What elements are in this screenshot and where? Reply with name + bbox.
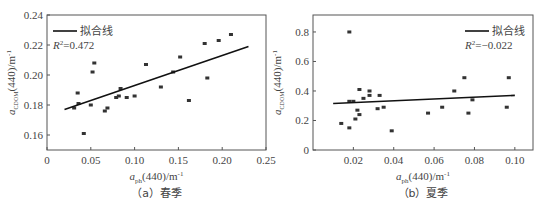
data-point — [470, 98, 474, 101]
x-axis-label: aph(440)/m-1 — [130, 170, 184, 185]
y-tick-label: 0.24 — [24, 9, 44, 21]
data-point — [187, 99, 191, 102]
data-point — [466, 112, 470, 115]
data-point — [357, 113, 361, 116]
x-tick-label: 0.06 — [424, 154, 444, 166]
data-point — [203, 42, 207, 45]
data-point — [462, 76, 466, 79]
legend-label: 拟合线 — [492, 24, 525, 38]
data-point — [355, 109, 359, 112]
panel-caption: （a）春季 — [131, 187, 182, 200]
y-tick-label: 0.20 — [24, 69, 44, 81]
data-point — [353, 118, 357, 121]
data-point — [357, 88, 361, 91]
y-tick-label: 0.16 — [24, 129, 44, 141]
data-point — [144, 63, 148, 66]
data-point — [452, 89, 456, 92]
figure: 00.050.100.150.200.250.160.180.200.220.2… — [0, 0, 543, 204]
chart-panel-b: 0.020.040.060.080.1000.20.40.60.8拟合线R2=−… — [271, 15, 533, 200]
y-tick-label: 0.6 — [295, 55, 309, 67]
x-tick-label: 0.05 — [81, 154, 101, 166]
fit-line — [65, 47, 249, 110]
data-point — [426, 112, 430, 115]
data-point — [507, 76, 511, 79]
data-point — [103, 110, 107, 113]
data-point — [382, 106, 386, 109]
fit-line — [333, 95, 515, 103]
data-point — [440, 106, 444, 109]
y-tick-label: 0.8 — [295, 26, 309, 38]
x-tick-label: 0.08 — [465, 154, 485, 166]
chart-panel-a: 00.050.100.150.200.250.160.180.200.220.2… — [5, 9, 276, 200]
x-axis-label: aph(440)/m-1 — [396, 170, 450, 185]
y-tick-label: 0.4 — [295, 85, 309, 97]
y-tick-label: 0.18 — [24, 99, 44, 111]
r-squared-label: R2=0.472 — [52, 39, 94, 51]
y-axis-label: aCDOM(440)/m-1 — [271, 50, 285, 115]
x-tick-label: 0.25 — [256, 154, 276, 166]
data-point — [133, 95, 137, 98]
data-point — [368, 89, 372, 92]
data-point — [159, 86, 163, 89]
data-point — [92, 62, 96, 65]
y-tick-label: 0.2 — [295, 114, 309, 126]
data-point — [89, 104, 93, 107]
data-point — [91, 71, 95, 74]
x-tick-label: 0.04 — [384, 154, 404, 166]
data-point — [378, 94, 382, 97]
data-point — [505, 106, 509, 109]
x-tick-label: 0 — [44, 154, 50, 166]
data-point — [229, 33, 233, 36]
data-point — [390, 129, 394, 132]
data-point — [347, 126, 351, 129]
data-point — [347, 30, 351, 33]
x-tick-label: 0.10 — [125, 154, 145, 166]
data-point — [178, 56, 182, 59]
panel-caption: （b）夏季 — [398, 187, 449, 200]
y-axis-label: aCDOM(440)/m-1 — [5, 50, 19, 115]
data-point — [76, 92, 80, 95]
data-point — [82, 132, 86, 135]
data-point — [205, 77, 209, 80]
x-tick-label: 0.20 — [213, 154, 233, 166]
data-point — [125, 96, 129, 99]
data-point — [217, 39, 221, 42]
x-tick-label: 0.10 — [505, 154, 525, 166]
x-tick-label: 0.02 — [344, 154, 363, 166]
data-point — [339, 122, 343, 125]
x-tick-label: 0.15 — [169, 154, 189, 166]
legend-label: 拟合线 — [80, 24, 113, 38]
r-squared-label: R2=−0.022 — [464, 39, 512, 51]
data-point — [117, 95, 121, 98]
y-tick-label: 0 — [304, 144, 310, 156]
data-point — [361, 97, 365, 100]
data-point — [105, 107, 109, 110]
data-point — [376, 107, 380, 110]
data-point — [368, 94, 372, 97]
y-tick-label: 0.22 — [24, 39, 43, 51]
